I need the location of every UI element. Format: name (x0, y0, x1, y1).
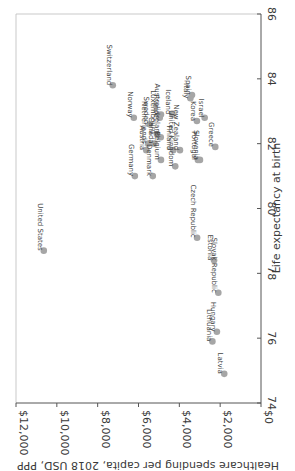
x-tick-label: $12,000 (17, 410, 30, 456)
point-label: Greece (207, 122, 215, 147)
spending-ticks: $12,000$10,000$8,000$6,000$4,000$2,000$0 (16, 403, 275, 456)
point-label: Spain (184, 75, 192, 95)
point-label: Ireland (153, 113, 161, 137)
point-label: United Kingdom (167, 110, 175, 166)
point-label: Latvia (216, 353, 224, 374)
point-label: Lithuania (204, 309, 212, 341)
x-tick-label: $8,000 (99, 410, 112, 449)
scatter-chart: $12,000$10,000$8,000$6,000$4,000$2,000$0… (0, 0, 295, 471)
point-label: Czech Republic (189, 184, 197, 237)
x-tick-label: $10,000 (58, 410, 71, 456)
point-labels: United StatesSwitzerlandNorwayGermanyNet… (36, 44, 224, 373)
point-label: Germany (127, 144, 135, 176)
x-tick-label: $0 (262, 410, 275, 424)
x-tick-label: $4,000 (180, 410, 193, 449)
point-label: Slovak Republic (210, 237, 218, 292)
data-points (40, 82, 227, 377)
point-label: Australia (153, 84, 161, 115)
y-tick-label: 76 (265, 331, 278, 345)
point-label: Denmark (145, 144, 153, 177)
x-tick-label: $6,000 (140, 410, 153, 449)
y-tick-label: 86 (265, 7, 278, 21)
point-label: Portugal (190, 131, 198, 160)
life-expectancy-axis-title: Life expectancy at birth (270, 143, 283, 274)
point-label: Norway (126, 91, 134, 118)
point-label: Korea (189, 101, 197, 121)
x-tick-label: $2,000 (221, 410, 234, 449)
point-label: Switzerland (105, 44, 113, 85)
spending-axis-title: Healthcare spending per capita, 2018 USD… (17, 459, 279, 471)
y-tick-label: 74 (265, 396, 278, 410)
point-label: United States (36, 203, 44, 251)
plot-frame (16, 14, 261, 403)
y-tick-label: 84 (265, 72, 278, 86)
